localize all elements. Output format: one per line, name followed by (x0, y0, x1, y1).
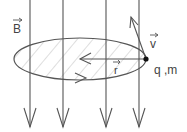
charge-mass-label: q ,m (154, 63, 177, 77)
svg-text:B: B (13, 22, 21, 36)
svg-text:v: v (150, 37, 156, 51)
magnetic-field-diagram: B v r q ,m (0, 0, 187, 132)
svg-text:r: r (114, 64, 118, 76)
charge-point (143, 56, 148, 61)
field-label: B (13, 18, 22, 36)
velocity-label: v (150, 33, 158, 51)
circular-orbit-region (0, 30, 187, 90)
